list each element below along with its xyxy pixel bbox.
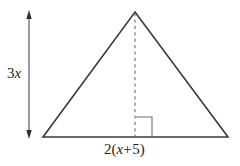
- base-label-coefficient: 2: [104, 141, 112, 157]
- height-dimension-arrow: [26, 10, 31, 139]
- geometry-figure: 3x 2(x+5): [0, 0, 240, 166]
- height-label-coefficient: 3: [7, 65, 15, 81]
- base-label-close-paren: ): [140, 141, 145, 157]
- base-label: 2(x+5): [104, 142, 145, 157]
- height-arrow-head-bottom: [26, 130, 31, 139]
- base-label-operator: +: [123, 141, 132, 157]
- height-arrow-head-top: [26, 10, 31, 19]
- base-label-constant: 5: [132, 141, 140, 157]
- right-angle-marker: [136, 117, 152, 137]
- height-label-variable: x: [15, 65, 22, 81]
- height-label: 3x: [7, 66, 21, 81]
